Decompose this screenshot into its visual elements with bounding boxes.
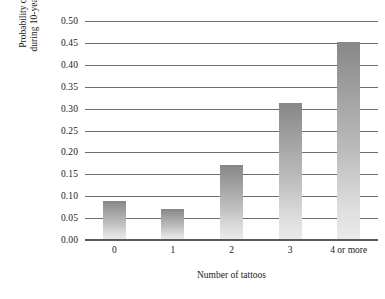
x-axis-line (85, 239, 378, 241)
y-axis-tick-label: 0.45 (61, 38, 78, 48)
y-axis-tick-label: 0.10 (61, 191, 78, 201)
y-axis-tick-label: 0.15 (61, 169, 78, 179)
x-axis-tick-label: 0 (112, 245, 117, 255)
x-axis-title: Number of tattoos (85, 270, 378, 280)
bar (161, 209, 184, 240)
y-axis-title-line-1: Probability of death (18, 0, 29, 48)
y-axis-tick-label: 0.05 (61, 213, 78, 223)
x-axis-tick-label: 2 (229, 245, 234, 255)
plot-area (85, 21, 378, 240)
y-axis-title: Probability of death during 10-year peri… (14, 0, 44, 90)
x-axis-tick-label: 1 (171, 245, 176, 255)
x-axis-tick-labels: 01234 or more (85, 245, 378, 261)
y-axis-tick-label: 0.30 (61, 104, 78, 114)
bar (103, 201, 126, 240)
bar (220, 165, 243, 240)
bar (279, 103, 302, 240)
x-axis-tick-label: 3 (288, 245, 293, 255)
y-axis-tick-label: 0.00 (61, 235, 78, 245)
y-axis-tick-labels: 0.000.050.100.150.200.250.300.350.400.45… (46, 21, 78, 240)
bar (337, 42, 360, 240)
tattoo-mortality-bar-chart: Probability of death during 10-year peri… (0, 0, 385, 299)
x-axis-tick-label: 4 or more (330, 245, 367, 255)
y-axis-tick-label: 0.40 (61, 60, 78, 70)
y-axis-title-line-2: during 10-year period (29, 0, 40, 51)
y-axis-tick-label: 0.20 (61, 147, 78, 157)
y-axis-tick-label: 0.50 (61, 16, 78, 26)
y-axis-tick-label: 0.25 (61, 126, 78, 136)
bar-series (85, 21, 378, 240)
y-axis-tick-label: 0.35 (61, 82, 78, 92)
